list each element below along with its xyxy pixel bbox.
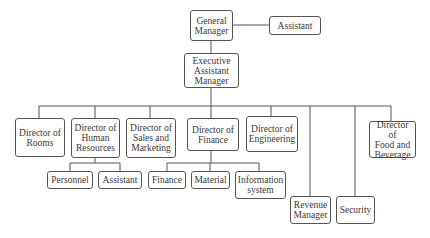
node-material: Material — [191, 171, 230, 189]
node-personnel: Personnel — [47, 171, 93, 189]
node-director-hr: Director of Human Resources — [71, 118, 120, 158]
node-general-manager: General Manager — [190, 10, 233, 41]
org-chart: General Manager Assistant Executive Assi… — [0, 0, 430, 238]
node-director-finance: Director of Finance — [187, 118, 239, 151]
node-executive-assistant-manager: Executive Assistant Manager — [184, 53, 239, 88]
node-hr-assistant: Assistant — [98, 171, 142, 189]
node-information-system: Information system — [235, 171, 286, 199]
node-director-sales: Director of Sales and Marketing — [126, 118, 176, 158]
node-director-fnb: Director of Food and Beverage — [369, 121, 416, 158]
node-gm-assistant: Assistant — [269, 16, 321, 35]
node-director-rooms: Director of Rooms — [15, 118, 65, 157]
node-finance: Finance — [148, 171, 186, 189]
node-director-engineering: Director of Engineering — [246, 116, 298, 152]
node-security: Security — [336, 196, 375, 224]
node-revenue-manager: Revenue Manager — [290, 196, 331, 224]
